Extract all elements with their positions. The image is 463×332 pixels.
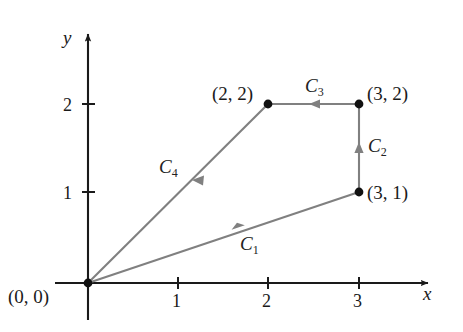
curve-c1-arrowhead [230, 221, 245, 230]
curve-label-c4-base: C [159, 156, 172, 177]
point-label-3-2: (3, 2) [367, 84, 408, 103]
axis-group [55, 34, 428, 320]
point-origin [84, 279, 93, 288]
point-label-2-2: (2, 2) [212, 84, 253, 103]
curve-label-c2-base: C [368, 135, 381, 156]
y-tick-label-2: 2 [63, 96, 72, 114]
marked-points-group [84, 100, 364, 288]
y-tick-label-1: 1 [63, 184, 72, 202]
curve-c1-segment [88, 192, 359, 283]
curve-label-c2: C2 [368, 136, 387, 155]
curve-label-c2-sub: 2 [381, 145, 387, 159]
curve-label-c1-base: C [240, 233, 253, 254]
curve-label-c1: C1 [240, 234, 259, 253]
path-curves-group [88, 99, 364, 283]
curve-label-c4-sub: 4 [172, 166, 178, 180]
curve-c2-arrowhead [354, 142, 363, 153]
curve-label-c3-base: C [305, 75, 318, 96]
point-label-origin: (0, 0) [8, 287, 49, 306]
point-3-2 [355, 100, 364, 109]
vector-field-path-figure: y x 1 2 3 1 2 (0, 0) (2, 2) (3, 2) (3, 1… [0, 0, 463, 332]
curve-c4-segment [88, 104, 268, 283]
point-3-1 [355, 188, 364, 197]
x-axis-label: x [423, 284, 431, 303]
point-label-3-1: (3, 1) [367, 183, 408, 202]
point-2-2 [264, 100, 273, 109]
curve-label-c1-sub: 1 [253, 243, 259, 257]
x-tick-label-1: 1 [172, 292, 181, 310]
curve-label-c3: C3 [305, 76, 324, 95]
curve-c3-arrowhead [309, 99, 320, 108]
curve-label-c3-sub: 3 [318, 85, 324, 99]
figure-canvas [0, 0, 463, 332]
curve-label-c4: C4 [159, 157, 178, 176]
x-tick-label-2: 2 [262, 292, 271, 310]
x-tick-label-3: 3 [353, 292, 362, 310]
y-axis-label: y [63, 28, 71, 47]
